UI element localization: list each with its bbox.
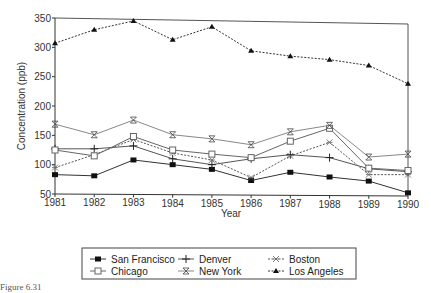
y-tick-label: 250: [34, 71, 51, 82]
data-point: [326, 154, 334, 162]
data-point: [366, 165, 372, 171]
data-point: [91, 173, 97, 178]
plot-top-border: [55, 18, 408, 24]
legend-label: Denver: [199, 254, 232, 265]
data-point: [52, 147, 58, 153]
data-point: [52, 40, 58, 45]
data-point: [209, 24, 215, 29]
legend-label: Los Angeles: [289, 266, 344, 277]
legend-marker: [95, 268, 101, 274]
x-tick-label: 1982: [83, 197, 106, 208]
data-point: [130, 117, 136, 123]
legend-label: Chicago: [111, 266, 148, 277]
x-tick-label: 1984: [162, 198, 185, 209]
data-point: [209, 151, 215, 157]
data-point: [327, 57, 333, 62]
series-san-francisco: [52, 157, 411, 195]
series-los-angeles: [52, 18, 411, 86]
series-line: [55, 128, 408, 170]
series-line: [55, 120, 408, 157]
y-tick-label: 100: [34, 159, 51, 170]
data-point: [170, 147, 176, 153]
legend-item: Denver: [178, 254, 232, 265]
x-tick-label: 1983: [122, 197, 145, 208]
data-point: [129, 142, 137, 150]
series-boston: [52, 136, 411, 180]
y-tick-label: 200: [34, 101, 51, 112]
data-point: [405, 168, 411, 174]
legend-label: Boston: [289, 254, 320, 265]
data-point: [130, 157, 136, 162]
data-point: [248, 178, 254, 183]
data-point: [248, 48, 254, 53]
data-point: [366, 179, 372, 184]
y-tick-label: 350: [34, 13, 51, 24]
data-point: [405, 190, 411, 195]
data-point: [366, 63, 372, 68]
legend-marker: [95, 257, 101, 262]
series-line: [55, 146, 408, 172]
series-line: [55, 21, 408, 84]
data-point: [170, 162, 176, 167]
data-point: [52, 172, 58, 177]
data-point: [91, 132, 97, 138]
y-tick-label: 150: [34, 130, 51, 141]
x-tick-label: 1988: [318, 199, 341, 210]
data-point: [130, 134, 136, 140]
line-chart: 50100150200250300350 1981198219831984198…: [0, 0, 431, 293]
x-axis-line: [55, 194, 408, 196]
x-tick-label: 1981: [44, 197, 67, 208]
y-axis-title: Concentration (ppb): [16, 62, 27, 150]
data-point: [248, 155, 254, 161]
data-point: [327, 139, 333, 145]
series-new-york: [52, 117, 411, 160]
data-point: [287, 138, 293, 144]
x-tick-label: 1990: [397, 199, 420, 210]
x-tick-label: 1986: [240, 198, 263, 209]
legend: San FranciscoDenverBostonChicagoNew York…: [82, 248, 356, 279]
x-tick-label: 1989: [358, 199, 381, 210]
series-line: [55, 139, 408, 177]
series-denver: [51, 142, 412, 176]
data-point: [287, 170, 293, 175]
legend-label: New York: [199, 266, 242, 277]
series-chicago: [52, 125, 411, 173]
data-point: [130, 18, 136, 23]
legend-label: San Francisco: [111, 254, 175, 265]
y-tick-label: 300: [34, 42, 51, 53]
x-axis-title: Year: [221, 208, 242, 219]
figure-caption: Figure 6.31: [0, 282, 42, 292]
data-point: [327, 174, 333, 179]
x-tick-label: 1987: [279, 198, 302, 209]
data-point: [91, 153, 97, 159]
